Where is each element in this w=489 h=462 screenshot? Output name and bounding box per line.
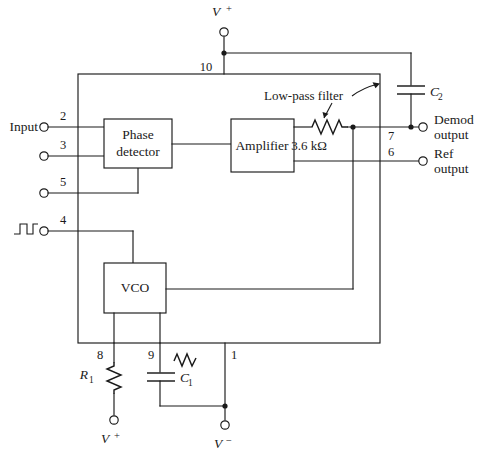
label-c1-subscript: 1 xyxy=(188,378,193,388)
resistor-r1 xyxy=(107,362,121,394)
terminal-vplus-bottom[interactable] xyxy=(110,416,118,424)
label-r1-subscript: 1 xyxy=(89,375,94,385)
label-vminus-sign: − xyxy=(226,435,232,446)
terminal-input-pin2[interactable] xyxy=(40,123,48,131)
block-amplifier-label: Amplifier xyxy=(235,138,289,153)
stray-zigzag-mark-icon xyxy=(174,354,196,366)
pin-label-7: 7 xyxy=(388,129,394,143)
label-demod-output-line1: Demod xyxy=(434,112,474,127)
schematic-canvas: V + 10 C 2 Input 2 3 5 4 xyxy=(0,0,489,462)
terminal-ref-output[interactable] xyxy=(419,157,427,165)
label-vplus-bottom-sign: + xyxy=(114,430,120,441)
terminal-input-pin5[interactable] xyxy=(40,189,48,197)
pin-label-3: 3 xyxy=(60,138,66,152)
terminal-input-pin3[interactable] xyxy=(40,152,48,160)
label-filter-resistor-value: 3.6 kΩ xyxy=(291,138,327,153)
pin-label-4: 4 xyxy=(60,213,67,227)
label-low-pass-filter: Low-pass filter xyxy=(264,88,344,103)
label-r1: R xyxy=(79,367,89,382)
circuit-diagram-figure: V + 10 C 2 Input 2 3 5 4 xyxy=(0,0,489,462)
junction-c2-demod xyxy=(408,124,413,129)
square-wave-icon xyxy=(14,224,38,234)
terminal-vplus-top[interactable] xyxy=(220,28,228,36)
label-vminus: V xyxy=(214,436,224,451)
label-vplus-bottom: V xyxy=(101,431,111,446)
block-vco-label: VCO xyxy=(121,280,150,295)
pin-label-1: 1 xyxy=(231,348,237,362)
block-phase-detector-label-line2: detector xyxy=(116,144,160,159)
pin-label-6: 6 xyxy=(388,145,394,159)
label-vplus-top-sign: + xyxy=(226,3,232,14)
label-input: Input xyxy=(10,119,39,134)
terminal-demod-output[interactable] xyxy=(419,123,427,131)
terminal-input-pin4[interactable] xyxy=(40,227,48,235)
pin-label-2: 2 xyxy=(60,109,66,123)
pin-label-9: 9 xyxy=(148,348,154,362)
pin-label-8: 8 xyxy=(97,348,103,362)
block-phase-detector-label-line1: Phase xyxy=(122,127,154,142)
pin-label-5: 5 xyxy=(60,175,66,189)
label-ref-output-line2: output xyxy=(434,161,469,176)
label-ref-output-line1: Ref xyxy=(434,146,454,161)
pin-label-10: 10 xyxy=(200,60,213,74)
label-vplus-top: V xyxy=(212,4,222,19)
terminal-vminus[interactable] xyxy=(221,421,229,429)
label-demod-output-line2: output xyxy=(434,127,469,142)
label-c2-subscript: 2 xyxy=(438,92,443,102)
